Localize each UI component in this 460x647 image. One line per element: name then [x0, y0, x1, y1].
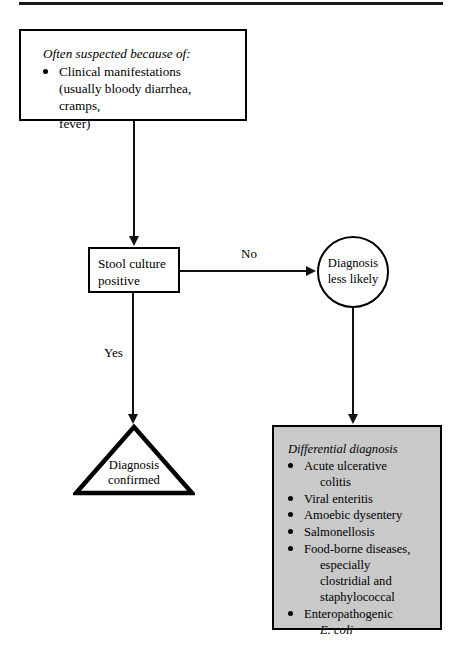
node-often-suspected-box: Often suspected because of: Clinical man…: [19, 29, 247, 121]
top-divider-rule: [19, 2, 443, 5]
node-content: Diagnosis less likely: [328, 256, 379, 287]
list-item: Amoebic dysentery: [288, 507, 434, 523]
bullet-continuation-line: fever): [59, 115, 235, 132]
triangle-line-2: confirmed: [73, 473, 195, 488]
bullet-dot-icon: [288, 611, 293, 616]
edge-yes-line: [132, 293, 134, 416]
bullet-text: Amoebic dysentery: [304, 508, 402, 522]
bullet-continuation-line: clostridial and: [304, 573, 434, 589]
bullet-continuation-line: (usually bloody diarrhea, cramps,: [59, 80, 235, 114]
circle-line-1: Diagnosis: [328, 256, 379, 272]
node-content: Diagnosis confirmed: [73, 458, 195, 489]
bullet-text: Enteropathogenic: [304, 607, 393, 621]
ddx-bullet-list: Acute ulcerative colitis Viral enteritis…: [288, 458, 434, 638]
node-content: Differential diagnosis Acute ulcerative …: [274, 427, 440, 638]
circle-line-2: less likely: [328, 272, 379, 288]
bullet-dot-icon: [43, 69, 48, 74]
triangle-line-1: Diagnosis: [73, 458, 195, 473]
bullet-text: Food-borne diseases,: [304, 542, 410, 556]
edge-no-arrowhead: [306, 266, 316, 276]
bullet-continuation-line: E. coli: [304, 622, 434, 638]
bullet-text: Acute ulcerative: [304, 459, 387, 473]
bullet-dot-icon: [288, 546, 293, 551]
list-item: Salmonellosis: [288, 524, 434, 540]
edge-yes-arrowhead: [128, 414, 138, 424]
node-stool-culture-box: Stool culture positive: [88, 247, 180, 293]
bullet-continuation-line: especially: [304, 557, 434, 573]
stool-line-2: positive: [98, 272, 178, 289]
edge-label-no: No: [241, 246, 257, 262]
stool-line-1: Stool culture: [98, 255, 178, 272]
bullet-dot-icon: [288, 496, 293, 501]
node-diagnosis-confirmed-triangle: Diagnosis confirmed: [73, 424, 195, 496]
edge-no-line: [180, 270, 308, 272]
suspect-bullet-list: Clinical manifestations (usually bloody …: [43, 63, 235, 132]
bullet-text: Salmonellosis: [304, 525, 375, 539]
flowchart-canvas: Often suspected because of: Clinical man…: [0, 0, 460, 647]
suspect-heading: Often suspected because of:: [43, 45, 235, 62]
bullet-text: Clinical manifestations: [59, 64, 181, 79]
list-item: Clinical manifestations (usually bloody …: [43, 63, 235, 132]
node-content: Often suspected because of: Clinical man…: [21, 31, 245, 132]
node-differential-diagnosis-box: Differential diagnosis Acute ulcerative …: [272, 425, 442, 630]
bullet-continuation-line: colitis: [304, 474, 434, 490]
bullet-text: Viral enteritis: [304, 492, 373, 506]
node-content: Stool culture positive: [90, 249, 178, 289]
edge-label-yes: Yes: [104, 345, 123, 361]
ddx-heading: Differential diagnosis: [288, 441, 434, 457]
bullet-dot-icon: [288, 512, 293, 517]
list-item: Food-borne diseases, especially clostrid…: [288, 541, 434, 605]
edge-suspect-to-stool-line: [133, 121, 135, 237]
edge-suspect-to-stool-arrowhead: [129, 236, 139, 246]
bullet-continuation-line: staphylococcal: [304, 589, 434, 605]
bullet-dot-icon: [288, 463, 293, 468]
edge-circle-to-ddx-line: [352, 308, 354, 416]
list-item: Viral enteritis: [288, 491, 434, 507]
bullet-dot-icon: [288, 529, 293, 534]
list-item: Acute ulcerative colitis: [288, 458, 434, 490]
list-item: Enteropathogenic E. coli: [288, 606, 434, 638]
node-diagnosis-less-likely-circle: Diagnosis less likely: [317, 236, 389, 308]
edge-circle-to-ddx-arrowhead: [348, 414, 358, 424]
